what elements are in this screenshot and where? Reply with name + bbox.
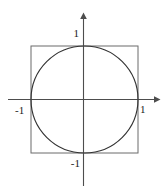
x-axis-label-positive-one: 1 [140,103,146,115]
y-axis-arrow-icon [80,13,87,20]
y-axis-label-negative-one: -1 [71,157,80,169]
x-axis-label-negative-one: -1 [15,104,24,116]
unit-circle-diagram: 1 -1 1 -1 [0,0,163,192]
x-axis-arrow-icon [154,96,161,103]
figure-container: 1 -1 1 -1 [0,0,163,192]
y-axis-label-positive-one: 1 [74,27,80,39]
